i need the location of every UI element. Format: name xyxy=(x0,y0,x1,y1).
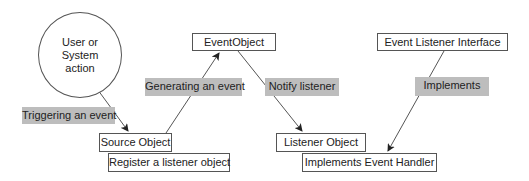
edge-label-triggering: Triggering an event xyxy=(22,107,115,124)
event-object-node: EventObject xyxy=(192,33,276,51)
user-system-action-node: User orSystemaction xyxy=(38,12,122,98)
node-text: System xyxy=(62,49,99,61)
node-text: action xyxy=(65,62,94,74)
edge-label-notify: Notify listener xyxy=(265,78,339,96)
edge-label-implements: Implements xyxy=(415,77,489,96)
register-listener-node: Register a listener object xyxy=(108,153,230,172)
edge-label-generating: Generating an event xyxy=(145,78,242,96)
event-handling-diagram: User orSystemaction Triggering an event … xyxy=(0,0,529,181)
implements-event-handler-node: Implements Event Handler xyxy=(302,153,437,172)
listener-object-node: Listener Object xyxy=(276,133,366,152)
node-text: User or xyxy=(62,36,98,48)
event-listener-interface-node: Event Listener Interface xyxy=(377,33,508,51)
source-object-node: Source Object xyxy=(99,133,172,152)
